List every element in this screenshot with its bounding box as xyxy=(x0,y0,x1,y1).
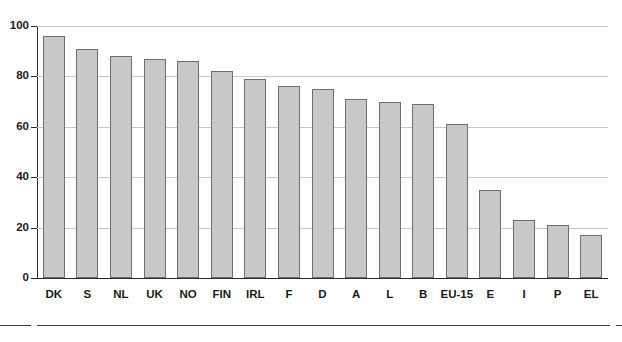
footer-rule-right-segment xyxy=(616,325,622,326)
x-axis-label: UK xyxy=(138,288,172,300)
bar-el xyxy=(580,235,602,278)
bar-f xyxy=(278,86,300,278)
y-tick-label-wrap-20: 20 xyxy=(0,222,29,233)
y-tick-label-wrap-80: 80 xyxy=(0,70,29,81)
bar-s xyxy=(76,49,98,278)
x-axis-label: D xyxy=(306,288,340,300)
y-tick-label: 80 xyxy=(3,70,29,81)
y-tick-label-wrap-0: 0 xyxy=(0,272,29,283)
y-tick-label: 40 xyxy=(3,171,29,182)
bar-l xyxy=(379,102,401,278)
x-axis-label: EL xyxy=(574,288,608,300)
x-axis-label: EU-15 xyxy=(440,288,474,300)
bars-group xyxy=(37,26,608,278)
bar-nl xyxy=(110,56,132,278)
bar-eu-15 xyxy=(446,124,468,278)
y-tick-label-wrap-40: 40 xyxy=(0,171,29,182)
y-tick-mark-0 xyxy=(31,278,37,279)
x-axis-line xyxy=(37,278,608,279)
bar-d xyxy=(312,89,334,278)
x-axis-label: E xyxy=(474,288,508,300)
bar-e xyxy=(479,190,501,278)
y-tick-label-wrap-60: 60 xyxy=(0,121,29,132)
y-tick-label: 60 xyxy=(3,121,29,132)
bar-p xyxy=(547,225,569,278)
x-axis-label: NO xyxy=(171,288,205,300)
bar-dk xyxy=(43,36,65,278)
x-axis-label: DK xyxy=(37,288,71,300)
x-axis-label: B xyxy=(406,288,440,300)
x-axis-label: S xyxy=(71,288,105,300)
x-axis-label: NL xyxy=(104,288,138,300)
y-tick-label: 0 xyxy=(3,272,29,283)
x-axis-label: IRL xyxy=(239,288,273,300)
bar-irl xyxy=(244,79,266,278)
y-tick-label: 100 xyxy=(3,20,29,31)
bar-a xyxy=(345,99,367,278)
footer-rule xyxy=(37,325,610,326)
bar-no xyxy=(177,61,199,278)
x-axis-label: L xyxy=(373,288,407,300)
x-axis-label: A xyxy=(339,288,373,300)
bar-chart: 020406080100 DKSNLUKNOFINIRLFDALBEU-15EI… xyxy=(0,0,622,342)
y-tick-label-wrap-100: 100 xyxy=(0,20,29,31)
x-axis-label: F xyxy=(272,288,306,300)
bar-uk xyxy=(144,59,166,278)
x-axis-label: FIN xyxy=(205,288,239,300)
y-tick-label: 20 xyxy=(3,222,29,233)
bar-b xyxy=(412,104,434,278)
bar-fin xyxy=(211,71,233,278)
x-axis-label: P xyxy=(541,288,575,300)
x-axis-label: I xyxy=(507,288,541,300)
bar-i xyxy=(513,220,535,278)
footer-rule-left-segment xyxy=(0,325,31,326)
